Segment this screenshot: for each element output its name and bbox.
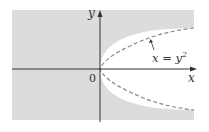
origin-label: 0 xyxy=(89,72,96,85)
y-axis-label: y xyxy=(87,6,95,20)
x-axis-label: x xyxy=(188,71,195,85)
region-diagram: y x 0 x = y2 xyxy=(0,0,209,132)
curve-equation-label: x = y2 xyxy=(152,50,187,65)
